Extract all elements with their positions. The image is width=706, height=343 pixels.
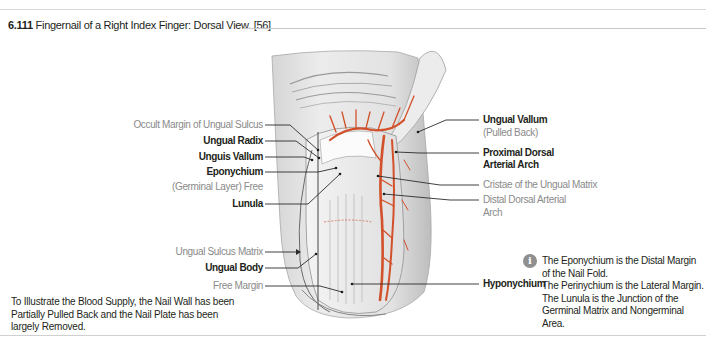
label-distal-dorsal-arterial-arch-line1: Distal Dorsal Arterial: [483, 194, 566, 206]
note-line: The Lunula is the Junction of the Germin…: [542, 293, 706, 331]
label-hyponychium: Hyponychium: [483, 278, 545, 290]
label-ungual-body: Ungual Body: [205, 262, 263, 274]
bottom-rule: [0, 335, 706, 336]
label-proximal-dorsal-arterial-arch-line1: Proximal Dorsal: [483, 147, 554, 159]
label-distal-dorsal-arterial-arch-line2: Arch: [483, 207, 502, 219]
label-free-margin: Free Margin: [213, 280, 263, 292]
label-ungual-radix: Ungual Radix: [203, 135, 263, 147]
label-eponychium: Eponychium: [206, 166, 263, 178]
label-ungual-sulcus-matrix: Ungual Sulcus Matrix: [176, 246, 263, 258]
label-ungual-vallum: Ungual Vallum: [483, 114, 547, 126]
figure-caption: To Illustrate the Blood Supply, the Nail…: [11, 296, 241, 334]
note-line: The Perinychium is the Lateral Margin.: [542, 280, 706, 293]
label-pulled-back: (Pulled Back): [483, 127, 538, 139]
label-cristae: Cristae of the Ungual Matrix: [483, 179, 597, 191]
label-germinal-layer: (Germinal Layer) Free: [172, 181, 263, 193]
finger-shape: [272, 51, 446, 318]
label-unguis-vallum: Unguis Vallum: [199, 151, 263, 163]
label-lunula: Lunula: [232, 198, 263, 210]
info-note: The Eponychium is the Distal Margin of t…: [542, 255, 706, 330]
label-proximal-dorsal-arterial-arch-line2: Arterial Arch: [483, 159, 539, 171]
label-occult-margin: Occult Margin of Ungual Sulcus: [133, 119, 263, 131]
info-icon: i: [523, 254, 537, 268]
note-line: The Eponychium is the Distal Margin of t…: [542, 255, 706, 280]
